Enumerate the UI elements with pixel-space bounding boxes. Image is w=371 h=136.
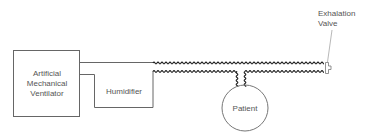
ventilator-label-line-3: Ventilator <box>14 89 80 99</box>
patient-label: Patient <box>222 104 268 114</box>
ventilator-label-line-2: Mechanical <box>14 79 80 89</box>
ventilator-label: Artificial Mechanical Ventilator <box>14 69 80 99</box>
corrugated-tube-bottom-left <box>153 71 237 73</box>
exhalation-valve-label: Exhalation Valve <box>318 9 355 29</box>
patient-tube-right <box>244 72 246 87</box>
humidifier-label: Humidifier <box>95 87 153 97</box>
valve-label-line-1: Exhalation <box>318 9 355 19</box>
ventilator-label-line-1: Artificial <box>14 69 80 79</box>
corrugated-tube-bottom-right <box>245 71 324 73</box>
exhalation-valve-icon <box>326 63 332 74</box>
ventilator-circuit-diagram <box>0 0 371 136</box>
valve-label-line-2: Valve <box>318 19 355 29</box>
valve-leader-line <box>328 30 333 62</box>
patient-tube-left <box>236 72 238 87</box>
corrugated-tube-top <box>153 62 324 64</box>
